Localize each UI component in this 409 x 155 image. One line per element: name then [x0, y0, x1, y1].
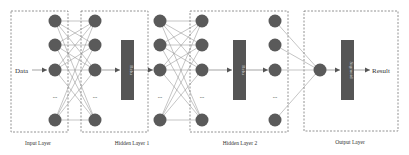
node — [49, 114, 62, 127]
output-node — [314, 64, 327, 77]
node — [154, 64, 167, 77]
node — [196, 15, 209, 28]
node — [49, 64, 62, 77]
node — [269, 15, 282, 28]
hidden-layer-1-label: Hidden Layer 1 — [115, 140, 150, 146]
relu-1-label: Relu — [129, 65, 134, 75]
node — [89, 64, 102, 77]
relu-2-label: Relu — [241, 65, 246, 75]
node — [196, 64, 209, 77]
node — [196, 39, 209, 52]
node — [49, 39, 62, 52]
sigmoid-label: Sigmoid — [349, 62, 354, 79]
ellipsis-hidden1-in: ... — [93, 93, 98, 99]
node — [154, 114, 167, 127]
edges-hidden2-output — [275, 21, 319, 120]
node — [89, 39, 102, 52]
result-label: Result — [372, 67, 390, 75]
node — [154, 15, 167, 28]
input-layer-nodes — [49, 15, 62, 127]
ellipsis-input: ... — [53, 93, 58, 99]
data-label: Data — [15, 67, 29, 75]
node — [269, 64, 282, 77]
ellipsis-hidden1-out: ... — [158, 93, 163, 99]
node — [269, 114, 282, 127]
node — [269, 39, 282, 52]
ellipsis-hidden2-in: ... — [200, 93, 205, 99]
hidden-2-output-nodes — [269, 15, 282, 127]
output-layer-label: Output Layer — [335, 139, 365, 145]
node — [49, 15, 62, 28]
neural-network-diagram: Relu Relu Sigmoid ... ... ... ... ... D — [0, 0, 409, 155]
hidden-1-input-nodes — [89, 15, 102, 127]
node — [89, 114, 102, 127]
hidden-layer-2-label: Hidden Layer 2 — [223, 140, 258, 146]
node — [89, 15, 102, 28]
node — [154, 39, 167, 52]
input-layer-label: Input Layer — [25, 140, 51, 146]
ellipsis-hidden2-out: ... — [273, 93, 278, 99]
node — [196, 114, 209, 127]
